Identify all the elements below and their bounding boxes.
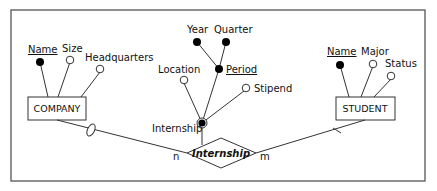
entity-student: Name Major Status STUDENT xyxy=(327,46,417,120)
year-dot xyxy=(193,38,201,46)
attr-year: Year xyxy=(186,24,209,35)
attr-company-size: Size xyxy=(62,43,83,54)
key-attribute-dot xyxy=(336,61,344,69)
attr-location: Location xyxy=(158,64,200,75)
identifier-label: Internship xyxy=(152,123,202,134)
attribute-circle xyxy=(369,60,377,68)
attr-stipend: Stipend xyxy=(254,83,292,94)
attr-student-status: Status xyxy=(385,58,417,69)
stipend-circle xyxy=(242,84,250,92)
key-attribute-dot xyxy=(36,58,44,66)
entity-company: Name Size Headquarters COMPANY xyxy=(28,43,153,120)
cardinality-right: m xyxy=(260,151,270,162)
attr-student-name: Name xyxy=(327,46,357,57)
attr-period: Period xyxy=(226,64,257,75)
entity-student-label: STUDENT xyxy=(342,103,387,114)
attr-quarter: Quarter xyxy=(214,24,254,35)
attr-company-headquarters: Headquarters xyxy=(85,52,153,63)
cardinality-left: n xyxy=(173,151,179,162)
period-dot xyxy=(215,65,223,73)
attr-student-major: Major xyxy=(361,46,390,57)
participation-oval xyxy=(85,123,97,138)
quarter-dot xyxy=(222,38,230,46)
attribute-circle xyxy=(96,65,104,73)
relationship-label: Internship xyxy=(192,148,250,159)
entity-company-label: COMPANY xyxy=(34,103,81,114)
location-circle xyxy=(180,76,188,84)
student-relationship-link xyxy=(256,120,365,153)
relationship-internship: Internship xyxy=(187,138,256,168)
attr-company-name: Name xyxy=(28,44,58,55)
attribute-circle xyxy=(66,56,74,64)
relationship-attributes: Year Quarter Period Location Stipend Int… xyxy=(152,24,292,145)
er-diagram: Name Size Headquarters COMPANY Name Majo… xyxy=(0,0,437,191)
attribute-circle xyxy=(387,72,395,80)
